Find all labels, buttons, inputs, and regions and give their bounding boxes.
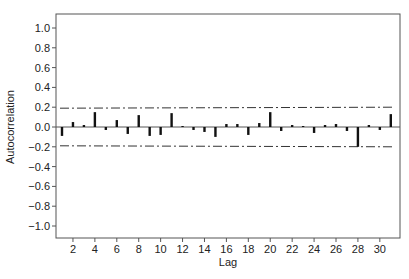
acf-bar-lag-26 bbox=[335, 124, 337, 127]
x-tick-label: 2 bbox=[70, 243, 76, 255]
lower-confidence-band bbox=[60, 146, 393, 147]
acf-bar-lag-4 bbox=[94, 112, 96, 127]
y-tick-label: 0.4 bbox=[35, 81, 50, 93]
acf-bar-lag-21 bbox=[280, 127, 282, 131]
acf-bar-lag-31 bbox=[390, 114, 392, 127]
acf-bars bbox=[61, 112, 392, 147]
plot-area bbox=[56, 14, 400, 238]
acf-bar-lag-20 bbox=[269, 112, 271, 127]
acf-bar-lag-6 bbox=[116, 120, 118, 127]
plot-frame bbox=[56, 14, 400, 238]
x-tick-label: 30 bbox=[374, 243, 386, 255]
x-tick-label: 24 bbox=[308, 243, 320, 255]
y-tick-label: 0.8 bbox=[35, 42, 50, 54]
acf-bar-lag-18 bbox=[247, 127, 249, 135]
acf-bar-lag-15 bbox=[214, 127, 216, 137]
upper-confidence-band bbox=[60, 107, 393, 108]
y-tick-label: 1.0 bbox=[35, 22, 50, 34]
acf-bar-lag-8 bbox=[138, 115, 140, 127]
y-tick-label: 0.2 bbox=[35, 101, 50, 113]
y-tick-label: −0.8 bbox=[28, 200, 50, 212]
y-tick-label: −1.0 bbox=[28, 220, 50, 232]
acf-bar-lag-30 bbox=[379, 127, 381, 130]
x-tick-label: 10 bbox=[155, 243, 167, 255]
acf-bar-lag-11 bbox=[170, 113, 172, 127]
y-tick-label: 0.6 bbox=[35, 62, 50, 74]
acf-bar-lag-28 bbox=[357, 127, 359, 147]
y-tick-label: −0.4 bbox=[28, 161, 50, 173]
acf-bar-lag-16 bbox=[225, 124, 227, 127]
acf-bar-lag-7 bbox=[127, 127, 129, 134]
acf-bar-lag-23 bbox=[302, 126, 304, 127]
acf-bar-lag-19 bbox=[258, 123, 260, 127]
y-axis-title: Autocorrelation bbox=[4, 90, 16, 164]
x-tick-label: 28 bbox=[352, 243, 364, 255]
acf-bar-lag-3 bbox=[83, 125, 85, 127]
acf-bar-lag-12 bbox=[181, 126, 183, 127]
x-tick-label: 20 bbox=[264, 243, 276, 255]
acf-bar-lag-29 bbox=[368, 125, 370, 127]
x-tick-label: 16 bbox=[220, 243, 232, 255]
acf-bar-lag-1 bbox=[61, 127, 63, 136]
x-tick-label: 26 bbox=[330, 243, 342, 255]
x-tick-label: 8 bbox=[136, 243, 142, 255]
x-tick-label: 6 bbox=[114, 243, 120, 255]
acf-bar-lag-10 bbox=[159, 127, 161, 135]
y-tick-label: −0.2 bbox=[28, 141, 50, 153]
x-tick-label: 14 bbox=[198, 243, 210, 255]
acf-bar-lag-22 bbox=[291, 125, 293, 127]
y-axis: −1.0−0.8−0.6−0.4−0.20.00.20.40.60.81.0 bbox=[28, 22, 56, 232]
x-tick-label: 22 bbox=[286, 243, 298, 255]
acf-bar-lag-2 bbox=[72, 122, 74, 127]
acf-bar-lag-25 bbox=[324, 125, 326, 127]
acf-bar-lag-24 bbox=[313, 127, 315, 133]
x-tick-label: 18 bbox=[242, 243, 254, 255]
acf-bar-lag-27 bbox=[346, 127, 348, 131]
y-tick-label: −0.6 bbox=[28, 180, 50, 192]
acf-bar-lag-14 bbox=[203, 127, 205, 132]
y-tick-label: 0.0 bbox=[35, 121, 50, 133]
acf-bar-lag-9 bbox=[148, 127, 150, 136]
x-tick-label: 12 bbox=[176, 243, 188, 255]
x-axis-title: Lag bbox=[219, 256, 237, 268]
x-axis: 24681012141618202224262830 bbox=[70, 238, 386, 255]
acf-bar-lag-5 bbox=[105, 127, 107, 130]
acf-bar-lag-17 bbox=[236, 124, 238, 127]
acf-chart: −1.0−0.8−0.6−0.4−0.20.00.20.40.60.81.0 2… bbox=[0, 0, 409, 279]
x-tick-label: 4 bbox=[92, 243, 98, 255]
acf-bar-lag-13 bbox=[192, 127, 194, 130]
